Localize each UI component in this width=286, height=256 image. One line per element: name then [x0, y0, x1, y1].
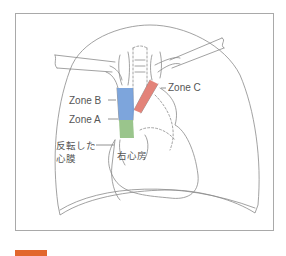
figure-tag-bar [15, 250, 47, 256]
zone-a-label: Zone A [69, 114, 101, 125]
zone-a-region [119, 120, 134, 138]
zone-c-region [134, 80, 158, 113]
right-atrium-label: 右心房 [117, 150, 147, 161]
zone-b-label: Zone B [69, 95, 101, 106]
left-vessel [55, 55, 115, 72]
reflected-pericardium-label-line1: 反転した [56, 140, 96, 151]
reflected-pericardium-label-line2: 心膜 [56, 153, 76, 164]
zone-b-region [117, 88, 134, 120]
zone-c-label: Zone C [168, 82, 201, 93]
